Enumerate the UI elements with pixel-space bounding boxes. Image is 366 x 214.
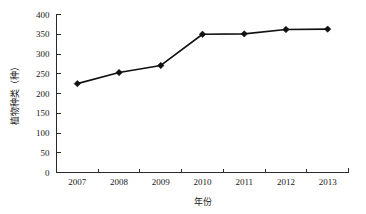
y-tick-label: 350 (36, 29, 50, 39)
y-tick-label: 400 (36, 10, 50, 20)
x-tick-label: 2007 (68, 177, 87, 187)
y-tick-label: 150 (36, 108, 50, 118)
x-tick-label: 2012 (277, 177, 295, 187)
y-tick-label: 0 (45, 168, 50, 178)
x-tick-label: 2010 (194, 177, 213, 187)
y-tick-label: 250 (36, 69, 50, 79)
x-axis-title: 年份 (194, 196, 212, 207)
chart-container: 050100150200250300350400 200720082009201… (0, 0, 366, 214)
x-tick-label: 2013 (319, 177, 338, 187)
x-tick-label: 2008 (110, 177, 129, 187)
chart-background (0, 0, 366, 214)
x-tick-label: 2011 (235, 177, 253, 187)
y-tick-label: 50 (41, 148, 51, 158)
y-tick-label: 100 (36, 128, 50, 138)
x-tick-label: 2009 (152, 177, 171, 187)
y-axis-title: 植物种类（种） (9, 62, 20, 125)
y-tick-label: 300 (36, 49, 50, 59)
y-tick-label: 200 (36, 89, 50, 99)
line-chart: 050100150200250300350400 200720082009201… (0, 0, 366, 214)
